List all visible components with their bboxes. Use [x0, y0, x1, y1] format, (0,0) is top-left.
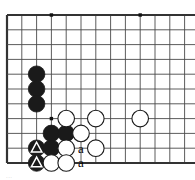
point-label: a [78, 155, 84, 170]
white-stone[interactable] [132, 110, 149, 127]
black-stone[interactable] [43, 125, 60, 142]
white-stone[interactable] [58, 155, 75, 172]
stone-disc [88, 110, 105, 127]
stone-disc [73, 125, 90, 142]
stone-disc [58, 155, 75, 172]
stone-disc [88, 140, 105, 157]
star-point [50, 117, 53, 120]
white-stone[interactable] [43, 155, 60, 172]
stone-disc [132, 110, 149, 127]
stone-disc [43, 140, 60, 157]
stone-disc [58, 125, 75, 142]
go-board[interactable]: aa [0, 0, 195, 180]
white-stone[interactable] [88, 140, 105, 157]
star-point [50, 13, 53, 16]
white-stone[interactable] [58, 140, 75, 157]
white-stone[interactable] [58, 110, 75, 127]
black-stone[interactable] [43, 140, 60, 157]
point-labels: aa [78, 141, 84, 171]
point-label: a [78, 141, 84, 156]
stone-disc [28, 66, 45, 83]
black-stone[interactable] [28, 96, 45, 113]
black-stone[interactable] [28, 66, 45, 83]
stone-disc [43, 125, 60, 142]
black-stone[interactable] [58, 125, 75, 142]
white-stone[interactable] [73, 125, 90, 142]
black-stone[interactable] [28, 140, 45, 157]
stone-disc [28, 96, 45, 113]
stone-disc [28, 81, 45, 98]
white-stone[interactable] [88, 110, 105, 127]
go-diagram-figure: aa ... [0, 0, 195, 180]
stone-disc [43, 155, 60, 172]
stone-disc [58, 140, 75, 157]
black-stone[interactable] [28, 81, 45, 98]
stone-disc [58, 110, 75, 127]
black-stone[interactable] [28, 155, 45, 172]
star-point [139, 13, 142, 16]
caption-fragment: ... [6, 173, 13, 179]
